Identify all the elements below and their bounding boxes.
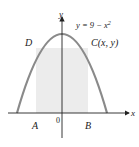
equation-label: y = 9 − x2 xyxy=(75,20,111,30)
point-c-label: C(x, y) xyxy=(91,37,119,49)
x-axis-label: x xyxy=(130,108,135,118)
point-d-label: D xyxy=(24,37,33,48)
origin-label: 0 xyxy=(56,116,60,125)
y-axis-label: y xyxy=(58,9,63,19)
parabola-diagram: y x y = 9 − x2 D C(x, y) A 0 B xyxy=(0,0,139,147)
equation-exponent: 2 xyxy=(108,20,111,26)
point-a-label: A xyxy=(31,120,39,131)
equation-main: y = 9 − x xyxy=(75,20,108,30)
point-b-label: B xyxy=(85,120,91,131)
